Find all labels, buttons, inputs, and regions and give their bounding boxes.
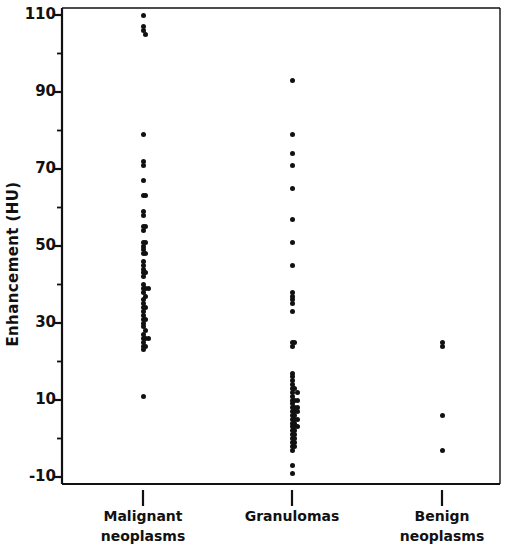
scatter-plot-figure: Enhancement (HU) 1109070503010-10 Malign…	[0, 0, 505, 557]
data-point	[290, 163, 295, 168]
data-point	[290, 78, 295, 83]
data-point	[141, 178, 146, 183]
data-point	[295, 390, 300, 395]
data-point	[295, 398, 300, 403]
data-point	[141, 132, 146, 137]
data-point	[440, 344, 445, 349]
data-point	[290, 309, 295, 314]
data-point	[290, 240, 295, 245]
data-point	[290, 301, 295, 306]
x-axis-category-label-line: Benign	[367, 506, 505, 526]
x-axis-category-label: Benignneoplasms	[367, 506, 505, 547]
data-point	[290, 471, 295, 476]
data-point	[290, 186, 295, 191]
data-point	[440, 448, 445, 453]
data-point	[290, 263, 295, 268]
data-point	[141, 228, 146, 233]
data-point	[143, 32, 148, 37]
x-axis-category-label: Malignantneoplasms	[68, 506, 218, 547]
data-point	[141, 213, 146, 218]
x-axis-category-label-line: neoplasms	[367, 526, 505, 546]
data-point	[146, 286, 151, 291]
data-point	[290, 151, 295, 156]
data-point	[290, 448, 295, 453]
plot-axes	[0, 0, 505, 557]
data-point	[141, 394, 146, 399]
data-point	[440, 413, 445, 418]
data-point	[290, 463, 295, 468]
x-axis-category-label-line: Malignant	[68, 506, 218, 526]
data-point	[290, 217, 295, 222]
data-point	[290, 132, 295, 137]
data-point	[141, 13, 146, 18]
data-point	[146, 336, 151, 341]
data-point	[290, 344, 295, 349]
data-point	[141, 163, 146, 168]
x-axis-category-label-line: neoplasms	[68, 526, 218, 546]
data-point	[141, 274, 146, 279]
x-axis-category-label: Granulomas	[217, 506, 367, 526]
x-axis-category-label-line: Granulomas	[217, 506, 367, 526]
